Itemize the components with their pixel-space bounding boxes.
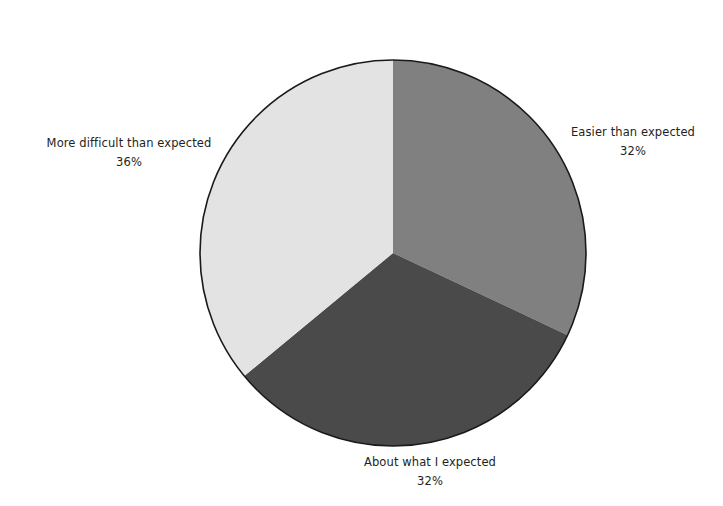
pie-chart: Easier than expected 32% About what I ex… xyxy=(0,0,723,506)
pie-label-more-difficult-than-expected: More difficult than expected 36% xyxy=(40,134,218,172)
pie-label-about-value: 32% xyxy=(355,472,505,491)
pie-label-easier-name: Easier than expected xyxy=(558,123,708,142)
pie-label-more-value: 36% xyxy=(40,153,218,172)
pie-chart-canvas xyxy=(0,0,723,506)
pie-label-easier-than-expected: Easier than expected 32% xyxy=(558,123,708,161)
pie-slice-group xyxy=(200,60,586,446)
pie-label-about-what-i-expected: About what I expected 32% xyxy=(355,453,505,491)
pie-label-easier-value: 32% xyxy=(558,142,708,161)
pie-label-more-name: More difficult than expected xyxy=(40,134,218,153)
pie-label-about-name: About what I expected xyxy=(355,453,505,472)
